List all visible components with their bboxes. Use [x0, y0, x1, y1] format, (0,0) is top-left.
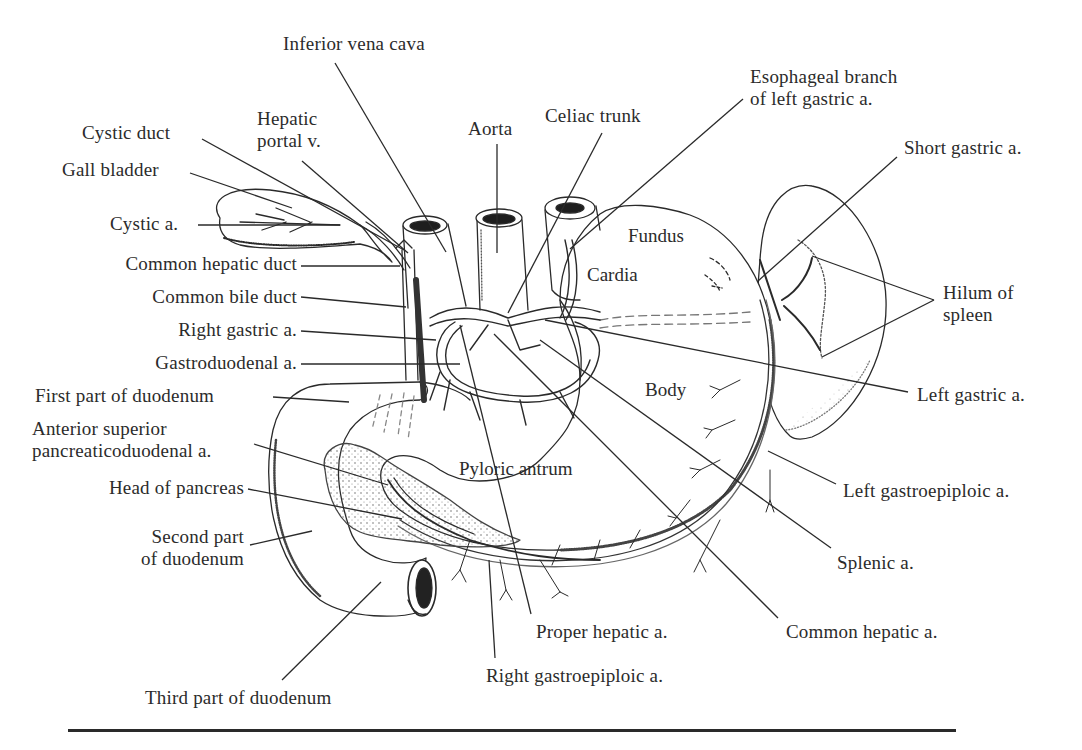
label-splenic-a: Splenic a.	[837, 552, 914, 574]
label-cystic-a: Cystic a.	[110, 213, 178, 235]
label-aorta: Aorta	[468, 118, 512, 140]
label-esophageal-branch-line1: Esophageal branch	[750, 66, 897, 88]
label-right-gastric-a: Right gastric a.	[147, 319, 297, 341]
label-hilum-of-spleen-line1: Hilum of	[943, 282, 1014, 304]
label-common-hepatic-a: Common hepatic a.	[786, 621, 938, 643]
leader-left-gastroepiploic-a	[768, 451, 836, 484]
region-label-body: Body	[645, 379, 686, 401]
label-hilum-of-spleen: Hilum of spleen	[943, 282, 1014, 326]
bottom-rule	[68, 729, 956, 732]
label-second-part-line1: Second part	[110, 526, 244, 548]
label-third-part-of-duodenum: Third part of duodenum	[145, 687, 331, 709]
anatomy-figure: Inferior vena cava Hepatic portal v. Aor…	[0, 0, 1082, 750]
leader-common-bile-duct	[301, 297, 406, 307]
label-right-gastroepiploic-a: Right gastroepiploic a.	[486, 665, 663, 687]
label-gastroduodenal-a: Gastroduodenal a.	[111, 352, 297, 374]
inferior-vena-cava-drawing	[403, 216, 466, 308]
label-aspd-line1: Anterior superior	[32, 418, 212, 440]
label-esophageal-branch: Esophageal branch of left gastric a.	[750, 66, 897, 110]
region-label-fundus: Fundus	[628, 225, 684, 247]
label-hepatic-portal-v-line2: portal v.	[257, 130, 321, 152]
label-celiac-trunk: Celiac trunk	[545, 105, 641, 127]
label-second-part-of-duodenum: Second part of duodenum	[110, 526, 244, 570]
region-label-cardia: Cardia	[587, 264, 638, 286]
label-inferior-vena-cava: Inferior vena cava	[283, 33, 425, 55]
label-anterior-superior-pancreaticoduodenal-a: Anterior superior pancreaticoduodenal a.	[32, 418, 212, 462]
label-common-bile-duct: Common bile duct	[108, 286, 297, 308]
label-short-gastric-a: Short gastric a.	[904, 137, 1022, 159]
leader-right-gastric-a	[301, 331, 436, 340]
label-left-gastric-a: Left gastric a.	[917, 384, 1025, 406]
aorta-drawing	[476, 209, 528, 310]
label-first-part-of-duodenum: First part of duodenum	[35, 385, 214, 407]
label-proper-hepatic-a: Proper hepatic a.	[536, 621, 668, 643]
label-common-hepatic-duct: Common hepatic duct	[73, 253, 297, 275]
label-left-gastroepiploic-a: Left gastroepiploic a.	[843, 480, 1009, 502]
label-esophageal-branch-line2: of left gastric a.	[750, 88, 897, 110]
label-head-of-pancreas: Head of pancreas	[66, 477, 244, 499]
label-aspd-line2: pancreaticoduodenal a.	[32, 440, 212, 462]
label-cystic-duct: Cystic duct	[82, 122, 170, 144]
label-second-part-line2: of duodenum	[110, 548, 244, 570]
label-gall-bladder: Gall bladder	[62, 159, 159, 181]
label-hilum-of-spleen-line2: spleen	[943, 304, 1014, 326]
leader-right-gastroepiploic-a	[489, 560, 495, 658]
label-hepatic-portal-v-line1: Hepatic	[257, 108, 321, 130]
label-hepatic-portal-v: Hepatic portal v.	[257, 108, 321, 152]
region-label-pyloric-antrum: Pyloric antrum	[459, 458, 572, 480]
